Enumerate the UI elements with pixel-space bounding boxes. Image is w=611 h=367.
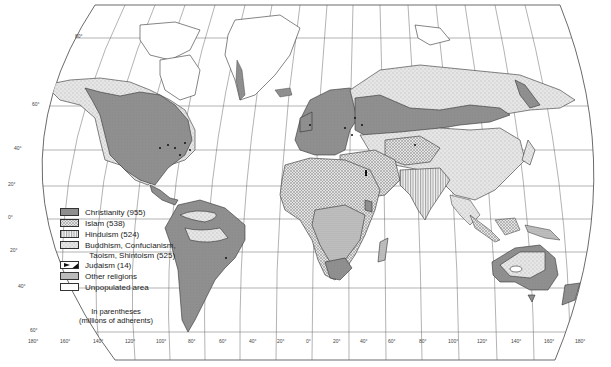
svg-text:120°: 120° [477,338,487,344]
svg-text:40°: 40° [249,338,257,344]
unpopulated-swatch [60,283,79,291]
legend-label: Buddhism, Confucianism, Taoism, Shintois… [85,241,176,261]
svg-text:40°: 40° [360,338,368,344]
svg-text:60°: 60° [32,101,40,107]
svg-text:40°: 40° [14,145,22,151]
svg-text:0°: 0° [8,214,13,220]
svg-text:20°: 20° [333,338,341,344]
svg-text:140°: 140° [93,338,103,344]
legend-item-other: Other religions [60,272,250,283]
legend-item-judaism: Judaism (14) [60,261,250,272]
svg-text:180°: 180° [28,338,38,344]
israel-judaism-marker [365,170,367,176]
legend: Christianity (955) Islam (538) Hinduism … [60,208,250,294]
islam-swatch [60,219,79,227]
legend-note-line2: (millions of adherents) [66,316,166,325]
svg-text:160°: 160° [544,338,554,344]
svg-text:60°: 60° [30,327,38,333]
legend-note: In parentheses (millions of adherents) [66,307,166,325]
hinduism-swatch [60,230,79,238]
legend-item-unpopulated: Unpopulated area [60,283,250,294]
legend-item-islam: Islam (538) [60,219,250,230]
legend-label: Judaism (14) [85,261,131,271]
legend-label: Hinduism (524) [85,230,139,240]
svg-text:80°: 80° [419,338,427,344]
svg-text:40°: 40° [18,283,26,289]
svg-text:20°: 20° [8,181,16,187]
svg-text:100°: 100° [448,338,458,344]
svg-text:140°: 140° [511,338,521,344]
other-religions-swatch [60,272,79,280]
legend-item-hinduism: Hinduism (524) [60,230,250,241]
svg-text:120°: 120° [125,338,135,344]
svg-text:80°: 80° [75,33,83,39]
svg-text:20°: 20° [277,338,285,344]
judaism-swatch [60,261,79,269]
svg-text:60°: 60° [219,338,227,344]
legend-label: Unpopulated area [85,283,149,293]
legend-label: Other religions [85,272,137,282]
buddhism-swatch [60,241,79,249]
legend-label: Islam (538) [85,219,125,229]
svg-text:20°: 20° [10,247,18,253]
svg-text:0°: 0° [306,338,311,344]
svg-text:160°: 160° [60,338,70,344]
svg-text:60°: 60° [388,338,396,344]
svg-text:80°: 80° [188,338,196,344]
legend-note-line1: In parentheses [66,307,166,316]
legend-item-christianity: Christianity (955) [60,208,250,219]
svg-text:180°: 180° [575,338,585,344]
legend-label: Christianity (955) [85,208,145,218]
legend-item-buddhism: Buddhism, Confucianism, Taoism, Shintois… [60,241,250,261]
christianity-swatch [60,208,79,216]
svg-text:100°: 100° [156,338,166,344]
